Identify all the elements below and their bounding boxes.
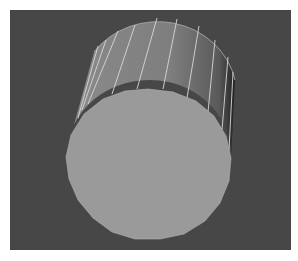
3d-viewport[interactable] xyxy=(10,10,291,250)
cylinder-front-cap xyxy=(66,89,231,239)
cylinder-render[interactable] xyxy=(10,10,291,250)
